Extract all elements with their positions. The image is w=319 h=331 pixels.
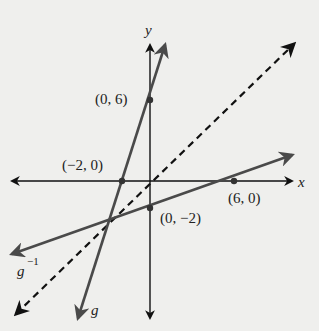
point-0-neg2 (147, 205, 153, 211)
g-label: g (91, 302, 99, 318)
point-6-0 (231, 178, 237, 184)
identity-line (16, 44, 294, 314)
graph-canvas: y x (0, 6) (−2, 0) (6, 0) (0, −2) g g −1 (0, 0, 319, 331)
x-axis-label: x (297, 174, 305, 190)
label-0-neg2: (0, −2) (160, 210, 201, 227)
g-inverse-label: g (17, 263, 25, 279)
label-6-0: (6, 0) (228, 190, 261, 207)
label-0-6: (0, 6) (95, 91, 128, 108)
y-axis-label: y (143, 22, 152, 38)
g-inverse-superscript: −1 (27, 255, 39, 267)
point-0-6 (147, 97, 153, 103)
label-neg2-0: (−2, 0) (62, 157, 103, 174)
point-neg2-0 (119, 178, 125, 184)
